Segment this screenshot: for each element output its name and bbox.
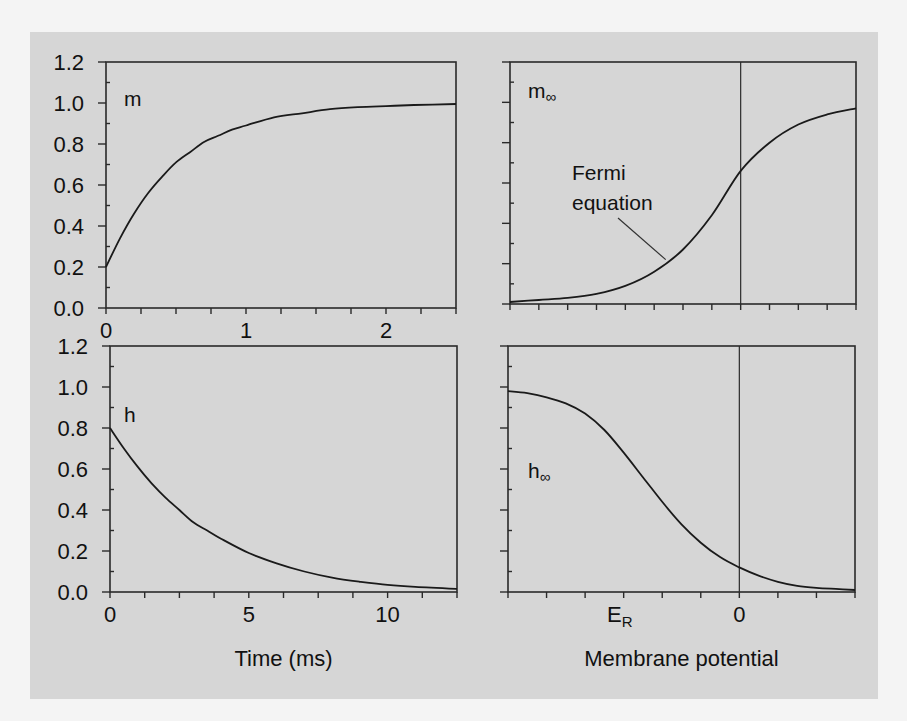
panel-label: m∞ — [528, 79, 557, 105]
y-tick-label: 1.0 — [53, 91, 84, 116]
annotation-leader-line — [618, 218, 666, 260]
plot-frame — [110, 346, 457, 592]
x-tick-label: 10 — [375, 602, 399, 627]
curve-m_time — [106, 104, 456, 267]
panel-label: h — [124, 403, 136, 426]
panel-m_time: 0.00.20.40.60.81.01.2012m — [53, 50, 456, 343]
x-tick-label: 2 — [380, 318, 392, 343]
y-tick-label: 1.2 — [53, 50, 84, 75]
y-tick-label: 0.6 — [53, 173, 84, 198]
curve-h_time — [110, 428, 457, 589]
fermi-equation-annotation: equation — [572, 191, 653, 214]
y-tick-label: 0.8 — [57, 416, 88, 441]
y-tick-label: 0.2 — [53, 255, 84, 280]
x-axis-title: Membrane potential — [584, 646, 778, 671]
y-tick-label: 0.2 — [57, 539, 88, 564]
y-tick-label: 0.0 — [57, 580, 88, 605]
plot-frame — [510, 62, 856, 304]
x-tick-label: 0 — [100, 318, 112, 343]
hodgkin-huxley-gating-figure: 0.00.20.40.60.81.01.2012mm∞Fermiequation… — [0, 0, 907, 721]
y-tick-label: 1.2 — [57, 334, 88, 359]
panel-label: m — [124, 87, 142, 110]
panel-h_time: 0.00.20.40.60.81.01.20510hTime (ms) — [57, 334, 457, 671]
plot-frame — [106, 62, 456, 308]
x-axis-title: Time (ms) — [234, 646, 332, 671]
x-tick-label: 1 — [240, 318, 252, 343]
y-tick-label: 0.6 — [57, 457, 88, 482]
plot-frame — [508, 346, 855, 592]
x-tick-label: 5 — [243, 602, 255, 627]
panel-m_inf: m∞Fermiequation — [502, 62, 856, 310]
y-tick-label: 0.0 — [53, 296, 84, 321]
x-tick-label: 0 — [733, 602, 745, 627]
fermi-equation-annotation: Fermi — [572, 161, 626, 184]
panel-h_inf: ER0h∞Membrane potential — [500, 346, 855, 671]
y-tick-label: 0.8 — [53, 132, 84, 157]
y-tick-label: 1.0 — [57, 375, 88, 400]
curve-m_inf — [510, 108, 856, 302]
resting-potential-label: ER — [607, 602, 633, 630]
curve-h_inf — [508, 391, 855, 590]
x-tick-label: 0 — [104, 602, 116, 627]
panel-label: h∞ — [528, 459, 551, 485]
y-tick-label: 0.4 — [53, 214, 84, 239]
y-tick-label: 0.4 — [57, 498, 88, 523]
